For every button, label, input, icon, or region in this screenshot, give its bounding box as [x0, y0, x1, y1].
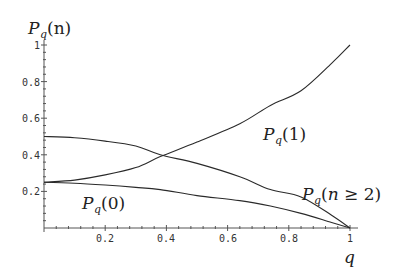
- x-tick-label: 1: [347, 233, 353, 244]
- svg-text:P: P: [81, 193, 94, 213]
- y-tick-label: 0.2: [22, 186, 40, 197]
- y-tick-label: 0.8: [22, 77, 40, 88]
- svg-text:(n ≥ 2): (n ≥ 2): [321, 184, 381, 204]
- y-tick-label: 1: [34, 40, 40, 51]
- label-p1: P q (1): [262, 124, 306, 147]
- svg-text:q: q: [275, 134, 282, 147]
- y-tick-label: 0.4: [22, 150, 40, 161]
- svg-text:q: q: [314, 194, 321, 207]
- svg-text:q: q: [40, 28, 47, 41]
- svg-text:(1): (1): [282, 124, 306, 144]
- label-p0: P q (0): [81, 193, 125, 216]
- svg-text:q: q: [94, 203, 101, 216]
- x-tick-label: 0.2: [96, 233, 114, 244]
- curve-p1: [44, 45, 350, 182]
- svg-text:P: P: [301, 184, 314, 204]
- chart: 1 0.8 0.6 0.4 0.2 0.2 0.4 0.6 0.8 1 P q …: [0, 0, 399, 274]
- svg-text:P: P: [27, 18, 40, 38]
- svg-text:(0): (0): [101, 193, 125, 213]
- y-axis-label: P q (n): [27, 18, 71, 41]
- y-tick-label: 0.6: [22, 113, 40, 124]
- x-tick-label: 0.8: [280, 233, 298, 244]
- x-tick-label: 0.6: [219, 233, 237, 244]
- svg-text:P: P: [262, 124, 275, 144]
- svg-text:(n): (n): [47, 18, 71, 38]
- x-tick-label: 0.4: [157, 233, 175, 244]
- x-axis-label: q: [344, 247, 355, 267]
- label-p-n-ge-2: P q (n ≥ 2): [301, 184, 381, 207]
